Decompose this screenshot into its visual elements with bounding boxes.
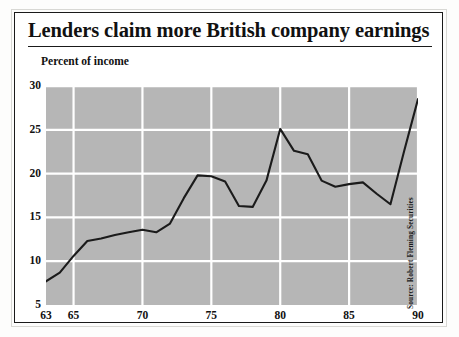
x-tick-label: 75 [196,310,226,322]
horizontal-gridlines [46,86,418,261]
y-tick-label: 15 [15,211,41,223]
x-tick-label: 65 [59,310,89,322]
x-tick-label: 63 [31,310,61,322]
x-tick-label: 85 [334,310,364,322]
chart-plot-svg [46,86,418,305]
title-divider [28,46,432,47]
y-tick-label: 25 [15,124,41,136]
y-axis-label: Percent of income [41,55,129,67]
y-tick-label: 20 [15,168,41,180]
x-tick-label: 90 [403,310,433,322]
chart-title: Lenders claim more British company earni… [28,20,432,42]
plot-area [46,86,418,305]
x-tick-label: 80 [265,310,295,322]
chart-figure: Lenders claim more British company earni… [0,0,459,337]
x-tick-label: 70 [127,310,157,322]
source-credit: Source: Robert Fleming Securities [406,197,415,309]
y-tick-label: 10 [15,255,41,267]
data-line-percent-of-income [46,99,418,281]
vertical-gridlines [74,86,418,305]
y-tick-label: 30 [15,80,41,92]
y-tick-label: 5 [15,299,41,311]
